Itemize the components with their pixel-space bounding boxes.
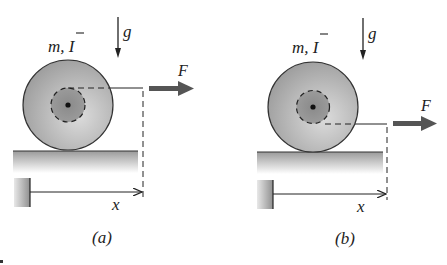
force-arrow — [149, 81, 194, 96]
reference-wall — [14, 178, 30, 207]
panel-b: F g m, I x (b) — [257, 18, 437, 248]
scan-speck — [0, 260, 3, 263]
ground — [257, 152, 383, 174]
panel-caption: (b) — [335, 229, 355, 248]
displacement-label: x — [356, 197, 365, 216]
gravity-label: g — [123, 22, 132, 41]
center-point — [310, 104, 315, 109]
panel-a: F g m, I x (a) — [13, 17, 194, 247]
force-label: F — [177, 62, 188, 79]
reference-wall — [257, 180, 273, 209]
panel-caption: (a) — [92, 228, 112, 247]
force-label: F — [420, 97, 431, 114]
displacement-label: x — [111, 195, 120, 214]
mass-inertia-label: m, I — [292, 38, 320, 57]
inertia-label: I — [312, 38, 320, 57]
rolling-disk-diagram: F g m, I x (a) — [0, 0, 447, 265]
inertia-label: I — [68, 37, 76, 56]
center-point — [65, 102, 70, 107]
gravity-arrow — [115, 17, 121, 58]
gravity-label: g — [368, 24, 377, 43]
gravity-arrow — [360, 18, 366, 60]
mass-inertia-label: m, I — [48, 37, 76, 56]
force-arrow — [393, 116, 437, 131]
mass-label: m, — [292, 38, 313, 57]
mass-label: m, — [48, 37, 69, 56]
ground — [13, 151, 138, 173]
